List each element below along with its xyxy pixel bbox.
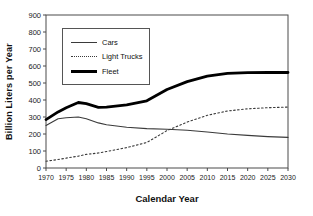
- x-tick-label: 1980: [79, 174, 95, 181]
- chart-legend: Cars Light Trucks Fleet: [62, 28, 150, 85]
- x-tick-label: 1970: [38, 174, 54, 181]
- legend-label-cars: Cars: [102, 38, 118, 47]
- legend-label-light-trucks: Light Trucks: [102, 52, 142, 61]
- x-tick-label: 2025: [260, 174, 276, 181]
- dotted-line-icon: [71, 56, 97, 57]
- x-tick-label: 2015: [220, 174, 236, 181]
- y-tick-label: 300: [28, 113, 41, 122]
- y-tick-label: 0: [37, 164, 41, 173]
- y-tick-label: 200: [28, 130, 41, 139]
- x-tick-label: 2010: [200, 174, 216, 181]
- series-line-cars: [46, 117, 288, 137]
- x-tick-label: 2020: [240, 174, 256, 181]
- x-axis-title: Calendar Year: [46, 193, 288, 204]
- y-tick-label: 700: [28, 45, 41, 54]
- thin-solid-line-icon: [71, 42, 97, 43]
- plot-area: 0100200300400500600700800900197019751980…: [0, 0, 313, 216]
- y-tick-label: 100: [28, 147, 41, 156]
- x-tick-label: 1985: [99, 174, 115, 181]
- x-tick-label: 2000: [159, 174, 175, 181]
- y-axis-title: Billion Liters per Year: [2, 15, 16, 168]
- x-tick-label: 1975: [58, 174, 74, 181]
- x-tick-label: 1990: [119, 174, 135, 181]
- thick-solid-line-icon: [71, 70, 97, 73]
- y-tick-label: 400: [28, 96, 41, 105]
- series-line-light-trucks: [46, 107, 288, 161]
- y-tick-label: 800: [28, 28, 41, 37]
- x-tick-label: 2005: [179, 174, 195, 181]
- legend-item-light-trucks: Light Trucks: [71, 52, 146, 61]
- legend-item-cars: Cars: [71, 38, 146, 47]
- y-tick-label: 600: [28, 62, 41, 71]
- y-tick-label: 900: [28, 11, 41, 20]
- x-tick-label: 2030: [280, 174, 296, 181]
- fuel-use-projection-chart: 0100200300400500600700800900197019751980…: [0, 0, 313, 216]
- x-tick-label: 1995: [139, 174, 155, 181]
- legend-label-fleet: Fleet: [102, 67, 119, 76]
- legend-item-fleet: Fleet: [71, 67, 146, 76]
- y-tick-label: 500: [28, 79, 41, 88]
